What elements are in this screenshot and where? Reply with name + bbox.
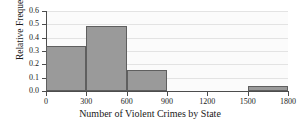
histogram-figure: Relative Frequency 0.00.10.20.30.40.50.6…	[0, 0, 300, 126]
x-tick-mark	[86, 92, 87, 96]
x-tick-label: 1800	[268, 97, 300, 106]
x-tick-label: 1500	[228, 97, 268, 106]
y-tick-label: 0.6	[0, 7, 42, 15]
x-tick-label: 0	[26, 97, 66, 106]
x-tick-mark	[288, 92, 289, 96]
y-tick-label-text: 0.0	[29, 87, 39, 95]
histogram-bar	[127, 70, 167, 91]
histogram-bar	[46, 46, 86, 91]
y-tick-label: 0.5	[0, 20, 42, 28]
y-tick-label-text: 0.2	[29, 60, 39, 68]
y-tick-label-text: 0.6	[29, 7, 39, 15]
y-tick-label: 0.4	[0, 34, 42, 42]
y-tick-label: 0.0	[0, 87, 42, 95]
plot-band	[46, 24, 288, 37]
gridline	[46, 38, 288, 39]
x-tick-label: 600	[107, 97, 147, 106]
y-tick-label-text: 0.5	[29, 20, 39, 28]
y-tick-mark	[42, 38, 46, 39]
gridline	[46, 11, 288, 12]
y-tick-label-text: 0.1	[29, 74, 39, 82]
x-tick-mark	[167, 92, 168, 96]
gridline	[46, 24, 288, 25]
x-tick-label: 1200	[187, 97, 227, 106]
y-tick-label-text: 0.3	[29, 47, 39, 55]
y-tick-mark	[42, 11, 46, 12]
x-tick-mark	[46, 92, 47, 96]
x-tick-mark	[248, 92, 249, 96]
y-tick-label-text: 0.4	[29, 34, 39, 42]
y-tick-label: 0.2	[0, 60, 42, 68]
x-axis-title: Number of Violent Crimes by State	[0, 108, 300, 120]
x-tick-mark	[127, 92, 128, 96]
x-tick-mark	[207, 92, 208, 96]
x-tick-label: 300	[66, 97, 106, 106]
histogram-bar	[248, 86, 288, 91]
histogram-bar	[86, 26, 126, 91]
y-tick-label: 0.3	[0, 47, 42, 55]
x-tick-label: 900	[147, 97, 187, 106]
y-tick-mark	[42, 24, 46, 25]
y-tick-label: 0.1	[0, 74, 42, 82]
plot-band	[46, 11, 288, 24]
